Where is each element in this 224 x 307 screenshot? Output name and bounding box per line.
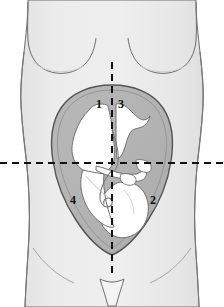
quadrant-label-3: 3 — [118, 97, 124, 111]
abdominal-quadrants-figure: 1 3 4 2 — [0, 0, 224, 307]
quadrant-label-4: 4 — [70, 193, 76, 207]
quadrant-label-2: 2 — [150, 193, 156, 207]
anatomy-illustration: 1 3 4 2 — [0, 0, 224, 307]
quadrant-label-1: 1 — [96, 97, 102, 111]
